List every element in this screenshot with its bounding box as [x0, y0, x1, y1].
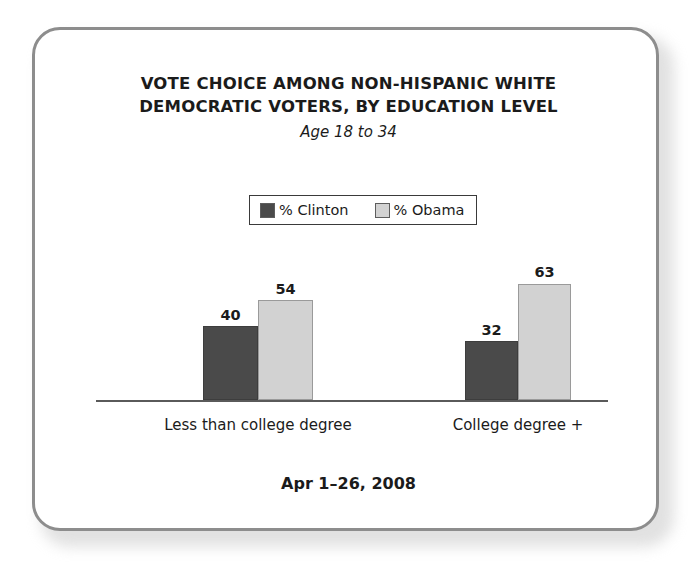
bar-clinton-less-than-college [203, 326, 258, 400]
chart-figure: VOTE CHOICE AMONG NON-HISPANIC WHITE DEM… [0, 0, 698, 567]
chart-title-line-2: DEMOCRATIC VOTERS, BY EDUCATION LEVEL [35, 95, 662, 118]
bar-value-obama-less-than-college: 54 [258, 281, 313, 297]
chart-subtitle: Age 18 to 34 [35, 121, 662, 143]
legend-item-obama: % Obama [375, 202, 465, 218]
legend-item-clinton: % Clinton [260, 202, 349, 218]
obama-swatch-icon [375, 203, 390, 218]
bar-value-clinton-less-than-college: 40 [203, 307, 258, 323]
bar-obama-less-than-college [258, 300, 313, 400]
bar-obama-college-degree [518, 284, 571, 401]
legend-label-clinton: % Clinton [279, 202, 349, 218]
x-axis-baseline [96, 400, 608, 402]
category-label-less-than-college: Less than college degree [138, 416, 378, 434]
bar-value-clinton-college-degree: 32 [465, 322, 518, 338]
chart-title-block: VOTE CHOICE AMONG NON-HISPANIC WHITE DEM… [35, 72, 662, 143]
bar-value-obama-college-degree: 63 [518, 264, 571, 280]
legend-label-obama: % Obama [394, 202, 465, 218]
category-label-college-degree: College degree + [398, 416, 638, 434]
clinton-swatch-icon [260, 203, 275, 218]
chart-legend: % Clinton % Obama [249, 195, 477, 225]
chart-title-line-1: VOTE CHOICE AMONG NON-HISPANIC WHITE [35, 72, 662, 95]
bar-clinton-college-degree [465, 341, 518, 400]
plot-area: 40 54 Less than college degree 32 63 Col… [96, 230, 608, 402]
chart-frame: VOTE CHOICE AMONG NON-HISPANIC WHITE DEM… [32, 27, 659, 531]
survey-date-label: Apr 1–26, 2008 [35, 474, 662, 493]
